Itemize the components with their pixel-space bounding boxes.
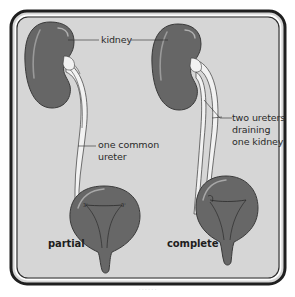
svg-text:3': 3' [121, 202, 126, 208]
label-kidney: kidney [101, 34, 132, 45]
svg-text:3': 3' [83, 202, 88, 208]
label-ureter: ureter [98, 151, 126, 162]
duplex-ureter-diagram: 3' 3' [0, 0, 295, 297]
kidney-left [25, 22, 75, 108]
label-one-kidney: one kidney [232, 136, 283, 147]
label-draining: draining [232, 124, 270, 135]
label-complete: complete [167, 238, 218, 249]
label-two-ureters: two ureters [232, 112, 285, 123]
label-one-common: one common [98, 139, 159, 150]
label-partial: partial [48, 238, 85, 249]
kidney-right [152, 24, 202, 110]
figure-caption: · · · · · · [0, 286, 295, 292]
